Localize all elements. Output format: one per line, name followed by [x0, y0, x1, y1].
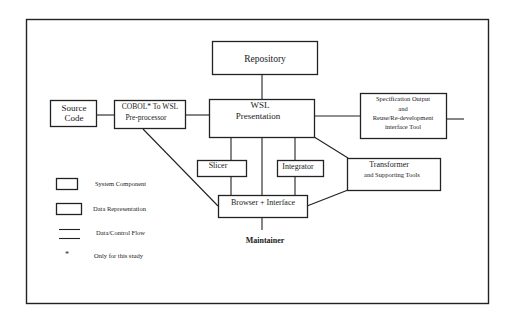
- node-source-code: Source Code: [51, 101, 97, 127]
- spec-label-1: Specification Output: [376, 95, 430, 102]
- source-code-label-2: Code: [65, 113, 84, 123]
- integrator-label: Integrator: [282, 162, 314, 171]
- node-repository: Repository: [213, 42, 318, 75]
- architecture-diagram: Repository Source Code COBOL* To WSL Pre…: [0, 0, 516, 321]
- legend-asterisk-icon: *: [65, 250, 69, 259]
- preprocessor-label-1: COBOL* To WSL: [122, 102, 179, 111]
- node-spec-output: Specification Output and Reuse/Re-develo…: [361, 94, 447, 139]
- spec-label-4: interface Tool: [385, 123, 421, 130]
- legend-system-component-swatch: [57, 179, 78, 190]
- legend-data-representation-swatch: [57, 204, 82, 215]
- slicer-label: Slicer: [209, 161, 228, 170]
- node-integrator: Integrator: [278, 161, 324, 177]
- repository-label: Repository: [244, 54, 286, 64]
- node-preprocessor: COBOL* To WSL Pre-processor: [115, 101, 186, 129]
- spec-label-3: Reuse/Re-development: [373, 114, 434, 121]
- source-code-label-1: Source: [62, 103, 87, 113]
- node-slicer: Slicer: [198, 161, 247, 177]
- node-browser-interface: Browser + Interface: [219, 196, 308, 218]
- legend-data-representation-label: Data Representation: [93, 205, 147, 212]
- node-transformer: Transformer and Supporting Tools: [348, 159, 441, 191]
- wsl-label-1: WSL: [251, 100, 270, 110]
- node-wsl-presentation: WSL Presentation: [210, 100, 315, 138]
- legend-system-component-label: System Component: [95, 180, 146, 187]
- legend-study-note-label: Only for this study: [94, 252, 144, 259]
- spec-label-2: and: [398, 105, 408, 112]
- transformer-label-2: and Supporting Tools: [364, 171, 420, 178]
- browser-label: Browser + Interface: [231, 198, 295, 207]
- legend-flow-label: Data/Control Flow: [96, 229, 145, 236]
- transformer-label-1: Transformer: [369, 160, 409, 169]
- wsl-label-2: Presentation: [236, 111, 281, 121]
- maintainer-label: Maintainer: [246, 236, 285, 245]
- preprocessor-label-2: Pre-processor: [125, 113, 167, 122]
